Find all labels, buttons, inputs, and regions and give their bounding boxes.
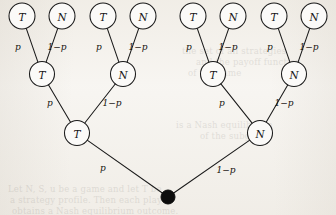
edge-leaf-node-3-to-parent [107, 28, 119, 63]
leaf-node-1[interactable] [9, 3, 35, 29]
node-level3-3[interactable] [201, 62, 226, 87]
edge-leaf-node-1-to-parent [26, 28, 38, 63]
tree-nodes [9, 3, 327, 204]
leaf-node-3[interactable] [90, 3, 116, 29]
edge-node-level3-2-to-parent [84, 83, 115, 123]
edge-leaf-node-4-to-parent [127, 28, 139, 63]
leaf-node-8[interactable] [301, 3, 327, 29]
node-level3-2[interactable] [111, 62, 136, 87]
edge-leaf-node-6-to-parent [217, 28, 229, 63]
leaf-node-2[interactable] [49, 3, 75, 29]
node-level3-4[interactable] [282, 62, 307, 87]
edge-leaf-node-8-to-parent [298, 28, 310, 63]
game-tree-figure: the set of all strategiesand the payoff … [0, 0, 336, 215]
edge-leaf-node-5-to-parent [197, 28, 209, 63]
edge-root-to-node-level2-right [173, 140, 250, 193]
tree-edges [26, 28, 310, 193]
edge-node-level3-4-to-parent [266, 84, 288, 122]
tree-graphics [0, 0, 336, 215]
node-level2-right[interactable] [248, 121, 273, 146]
leaf-node-6[interactable] [220, 3, 246, 29]
leaf-node-7[interactable] [261, 3, 287, 29]
edge-leaf-node-7-to-parent [278, 28, 290, 63]
node-level3-1[interactable] [30, 62, 55, 87]
edge-root-to-node-level2-left [87, 140, 163, 193]
leaf-node-4[interactable] [130, 3, 156, 29]
edge-node-level3-3-to-parent [220, 83, 252, 123]
edge-leaf-node-2-to-parent [46, 28, 58, 63]
root-node[interactable] [161, 190, 175, 204]
node-level2-left[interactable] [65, 121, 90, 146]
edge-node-level3-1-to-parent [48, 84, 71, 122]
leaf-node-5[interactable] [180, 3, 206, 29]
